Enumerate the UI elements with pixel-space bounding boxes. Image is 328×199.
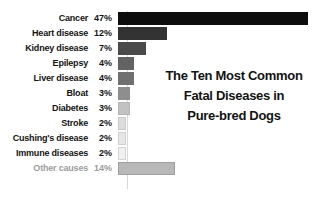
bar: [118, 72, 134, 85]
bar: [118, 147, 126, 160]
value-label: 2%: [88, 149, 118, 158]
category-label: Kidney disease: [0, 44, 88, 53]
value-label: 3%: [88, 89, 118, 98]
category-label: Stroke: [0, 119, 88, 128]
bar: [118, 117, 126, 130]
bar: [118, 132, 126, 145]
category-label: Other causes: [0, 164, 88, 173]
bar: [118, 42, 146, 55]
category-label: Bloat: [0, 89, 88, 98]
category-label: Diabetes: [0, 104, 88, 113]
category-label: Immune diseases: [0, 149, 88, 158]
bar: [118, 57, 134, 70]
table-row: Heart disease 12%: [0, 26, 328, 41]
bar: [118, 102, 130, 115]
value-label: 14%: [88, 164, 118, 173]
table-row: Cancer 47%: [0, 11, 328, 26]
value-label: 12%: [88, 29, 118, 38]
value-label: 4%: [88, 74, 118, 83]
bar-track: [118, 132, 328, 145]
chart-title: The Ten Most Common Fatal Diseases in Pu…: [146, 66, 322, 126]
chart-title-line-1: The Ten Most Common: [146, 66, 322, 86]
value-label: 2%: [88, 119, 118, 128]
bar: [118, 27, 167, 40]
chart-title-line-3: Pure-bred Dogs: [146, 106, 322, 126]
table-row: Other causes 14%: [0, 161, 328, 176]
bar-track: [118, 162, 328, 175]
value-label: 2%: [88, 134, 118, 143]
category-label: Cancer: [0, 14, 88, 23]
table-row: Immune diseases 2%: [0, 146, 328, 161]
category-label: Liver disease: [0, 74, 88, 83]
bar-track: [118, 147, 328, 160]
table-row: Cushing's disease 2%: [0, 131, 328, 146]
bar-chart: Cancer 47% Heart disease 12% Kidney dise…: [0, 0, 328, 199]
table-row: Kidney disease 7%: [0, 41, 328, 56]
bar: [118, 12, 308, 25]
value-label: 7%: [88, 44, 118, 53]
value-label: 4%: [88, 59, 118, 68]
bar: [118, 87, 130, 100]
category-label: Heart disease: [0, 29, 88, 38]
value-label: 47%: [88, 14, 118, 23]
chart-title-line-2: Fatal Diseases in: [146, 86, 322, 106]
category-label: Epilepsy: [0, 59, 88, 68]
bar-track: [118, 42, 328, 55]
category-label: Cushing's disease: [0, 134, 88, 143]
bar-track: [118, 12, 328, 25]
bar: [118, 162, 175, 175]
bar-track: [118, 27, 328, 40]
value-label: 3%: [88, 104, 118, 113]
